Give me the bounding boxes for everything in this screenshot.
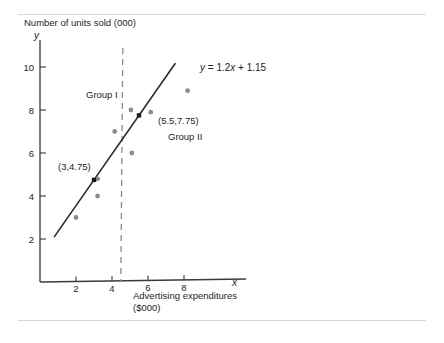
x-tick-label-6: 6	[145, 282, 150, 293]
data-point-7	[185, 88, 190, 93]
data-point-4	[129, 108, 134, 113]
x-axis-line	[40, 279, 246, 282]
tick-labels-group: 2468102468	[23, 62, 186, 295]
data-point-6	[148, 110, 153, 115]
data-point-0	[74, 215, 79, 220]
data-points-group	[74, 88, 190, 220]
fit-line	[54, 64, 175, 237]
y-tick-label-2: 2	[29, 234, 34, 245]
data-point-5	[129, 151, 134, 156]
y-tick-label-10: 10	[23, 62, 34, 73]
plot-canvas: 2468102468	[0, 0, 444, 343]
y-tick-label-8: 8	[29, 105, 34, 116]
marked-point-0	[92, 178, 96, 182]
marked-point-1	[137, 113, 141, 117]
tick-marks-group	[40, 67, 184, 281]
x-tick-label-2: 2	[73, 283, 78, 294]
data-point-3	[112, 129, 117, 134]
scatter-plot-figure: Number of units sold (000) y x Advertisi…	[0, 0, 444, 343]
x-tick-label-8: 8	[181, 282, 186, 293]
axes-group	[40, 40, 246, 282]
regression-line	[54, 64, 175, 237]
x-tick-label-4: 4	[109, 283, 114, 294]
data-point-1	[95, 194, 100, 199]
y-tick-label-6: 6	[29, 148, 34, 159]
divider-dashed-line	[121, 48, 123, 282]
y-tick-label-4: 4	[29, 191, 34, 202]
group-divider-line	[121, 48, 123, 282]
